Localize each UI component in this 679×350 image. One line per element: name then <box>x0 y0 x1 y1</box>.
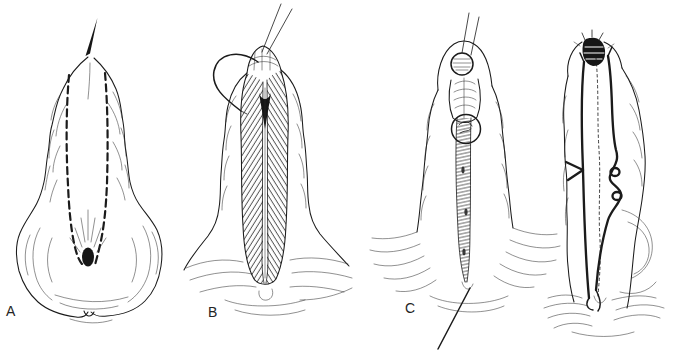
traction-suture <box>262 4 292 54</box>
catheter-stub <box>582 38 605 66</box>
panel-label-c: C <box>405 300 415 316</box>
shaft-outline-left <box>184 73 247 270</box>
glanular-raw-bed <box>449 79 480 122</box>
medical-illustration-figure: A B C <box>0 0 679 350</box>
panel-a-texture-strokes <box>25 63 158 323</box>
panel-a-illustration <box>17 18 162 323</box>
shaft-outline-right <box>492 86 513 228</box>
incision-dashed-line-left <box>67 75 82 264</box>
penis-outline-right <box>91 58 162 316</box>
raw-bed-right <box>267 71 288 284</box>
raw-bed-left <box>241 74 263 284</box>
glans-outline <box>438 41 492 90</box>
panel-b-illustration <box>184 4 352 315</box>
urethral-meatus <box>82 248 94 267</box>
figure-canvas: A B C <box>0 0 679 350</box>
suture-end-hooks <box>580 47 612 311</box>
catheter-tube <box>462 13 479 55</box>
urethral-stent <box>438 288 470 349</box>
penis-outline-left <box>17 57 89 317</box>
traction-needle <box>86 18 98 57</box>
shaft-outline-left <box>564 76 574 302</box>
shaft-outline-right <box>281 70 349 266</box>
panel-label-a: A <box>6 303 16 319</box>
suture-thread-left <box>582 62 589 298</box>
panel-c-left-illustration <box>370 13 560 349</box>
incision-dashed-line-right <box>95 73 108 265</box>
suture-thread-left-tails <box>566 162 583 180</box>
shaft-outline-left <box>417 90 438 232</box>
panel-c-right-texture-strokes <box>544 42 664 337</box>
catheter-cross-section <box>451 53 473 75</box>
panel-label-b: B <box>208 304 217 320</box>
panel-c-right-illustration <box>544 30 664 337</box>
